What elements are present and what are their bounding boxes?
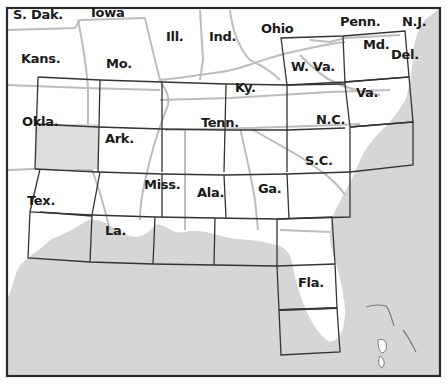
label-s-dak: S. Dak. [13,8,63,21]
label-okla: Okla. [22,115,58,128]
label-sc: S.C. [305,154,333,167]
label-ind: Ind. [209,30,236,43]
island-andros [378,339,387,352]
label-ga: Ga. [258,182,281,195]
label-tenn: Tenn. [201,116,239,129]
label-mo: Mo. [106,57,132,70]
highlight-cell-okla [35,124,98,169]
label-nj: N.J. [402,15,426,28]
label-md: Md. [363,38,389,51]
label-wva: W. Va. [291,60,335,73]
label-ala: Ala. [197,186,224,199]
index-map: S. Dak. Iowa Ill. Ind. Ohio Penn. N.J. K… [0,0,447,384]
label-miss: Miss. [144,178,180,191]
label-kans: Kans. [21,52,60,65]
label-ky: Ky. [235,81,256,94]
label-penn: Penn. [340,15,380,28]
label-nc: N.C. [316,113,345,126]
label-ark: Ark. [105,132,134,145]
label-tex: Tex. [27,194,55,207]
label-ill: Ill. [166,30,184,43]
label-fla: Fla. [298,276,324,289]
label-del: Del. [391,48,419,61]
label-va: Va. [356,86,378,99]
label-ohio: Ohio [261,22,294,35]
label-la: La. [105,224,126,237]
label-iowa: Iowa [91,6,124,19]
